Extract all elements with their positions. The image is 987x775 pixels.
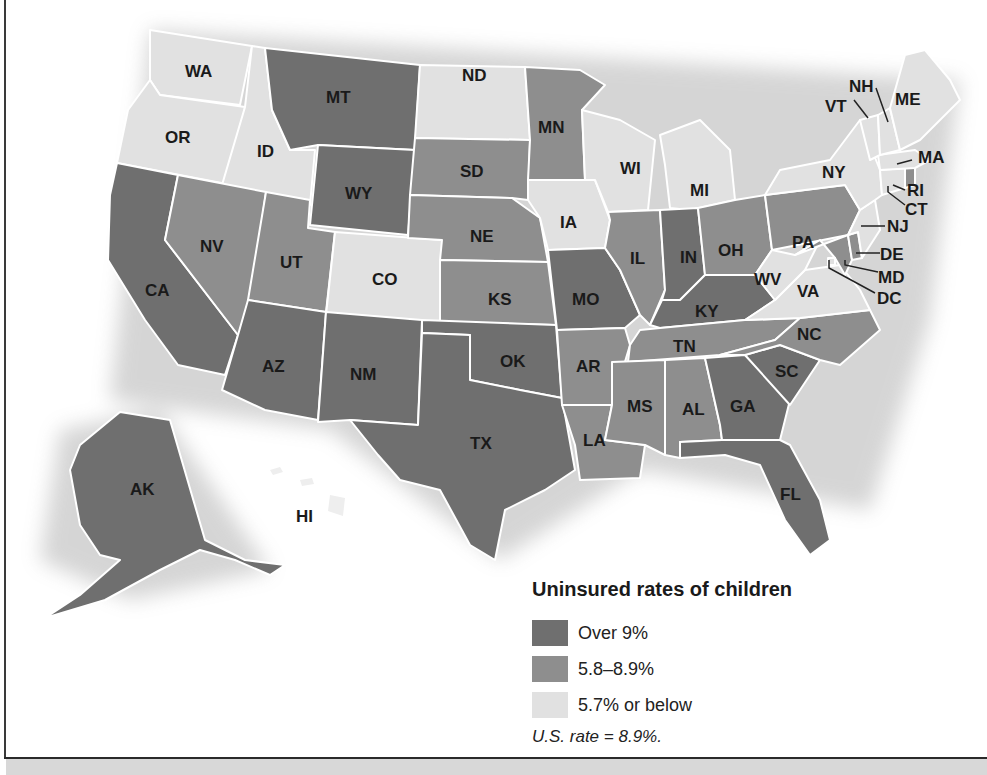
label-NM: NM [350, 365, 376, 384]
us-rate-note: U.S. rate = 8.9%. [532, 727, 792, 747]
label-HI: HI [296, 507, 313, 526]
label-NH: NH [849, 77, 874, 96]
legend-item-over-9: Over 9% [532, 615, 792, 651]
legend-title: Uninsured rates of children [532, 578, 792, 601]
legend-item-mid: 5.8–8.9% [532, 651, 792, 687]
label-AZ: AZ [262, 357, 285, 376]
label-IL: IL [630, 249, 645, 268]
state-OH[interactable] [698, 195, 772, 275]
label-VT: VT [825, 97, 847, 116]
legend-label: 5.7% or below [578, 695, 692, 716]
label-NY: NY [822, 163, 846, 182]
label-TX: TX [470, 434, 492, 453]
label-UT: UT [280, 253, 303, 272]
legend-item-low: 5.7% or below [532, 687, 792, 723]
label-MS: MS [627, 397, 653, 416]
label-MN: MN [538, 118, 564, 137]
legend-swatch-medium [532, 656, 568, 682]
label-PA: PA [792, 233, 814, 252]
label-NJ: NJ [887, 217, 909, 236]
label-MO: MO [572, 290, 599, 309]
label-FL: FL [780, 485, 801, 504]
legend-label: Over 9% [578, 623, 648, 644]
label-OH: OH [718, 241, 744, 260]
label-SC: SC [775, 362, 799, 381]
label-CA: CA [145, 281, 170, 300]
label-WY: WY [345, 184, 373, 203]
label-MD: MD [878, 268, 904, 287]
label-OR: OR [165, 128, 191, 147]
label-DC: DC [877, 289, 902, 308]
label-AL: AL [682, 400, 705, 419]
label-MA: MA [918, 148, 944, 167]
us-map: WA OR ID MT ND MN WY SD WI MI NY IA NE N… [0, 0, 987, 775]
label-WV: WV [754, 270, 782, 289]
label-WA: WA [185, 62, 212, 81]
label-ID: ID [257, 142, 274, 161]
label-MI: MI [690, 181, 709, 200]
label-MT: MT [326, 88, 351, 107]
label-NC: NC [797, 325, 822, 344]
label-GA: GA [730, 397, 756, 416]
label-KS: KS [488, 290, 512, 309]
label-WI: WI [620, 159, 641, 178]
label-AK: AK [130, 480, 155, 499]
label-NE: NE [470, 227, 494, 246]
label-SD: SD [460, 162, 484, 181]
label-OK: OK [500, 352, 526, 371]
label-TN: TN [673, 337, 696, 356]
label-ME: ME [895, 90, 921, 109]
label-IN: IN [680, 248, 697, 267]
label-AR: AR [576, 357, 601, 376]
label-NV: NV [200, 237, 224, 256]
label-LA: LA [583, 431, 606, 450]
label-DE: DE [880, 245, 904, 264]
label-KY: KY [695, 302, 719, 321]
label-CO: CO [372, 270, 398, 289]
label-VA: VA [797, 282, 819, 301]
legend-label: 5.8–8.9% [578, 659, 654, 680]
label-IA: IA [560, 213, 577, 232]
label-RI: RI [907, 181, 924, 200]
legend: Uninsured rates of children Over 9% 5.8–… [532, 578, 792, 747]
label-ND: ND [462, 66, 487, 85]
legend-swatch-light [532, 692, 568, 718]
legend-swatch-dark [532, 620, 568, 646]
